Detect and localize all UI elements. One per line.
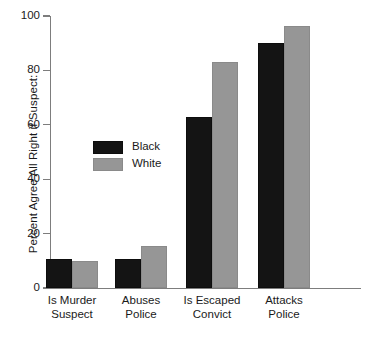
legend-swatch-black [93, 141, 123, 154]
legend-item-black: Black [93, 139, 161, 155]
bar-is-murder-suspect-white [72, 261, 98, 288]
legend-swatch-white [93, 158, 123, 171]
y-axis-tick-label: 0 [0, 282, 40, 294]
bar-chart: Percent Agree All Right if Suspect: 0204… [0, 0, 367, 340]
y-axis-tick-label: 20 [0, 228, 40, 240]
x-axis-line [50, 288, 361, 289]
x-axis-label-line: Police [229, 308, 339, 322]
x-axis-label-line: Attacks [229, 294, 339, 308]
y-axis-tick [43, 124, 50, 125]
bar-abuses-police-black [115, 259, 141, 288]
legend-label-white: White [132, 158, 161, 170]
legend-label-black: Black [132, 141, 160, 153]
y-axis-title: Percent Agree All Right if Suspect: [27, 39, 39, 289]
x-axis-label-attacks-police: AttacksPolice [229, 294, 339, 321]
y-axis-tick-label: 100 [0, 10, 40, 22]
y-axis-tick [43, 233, 50, 234]
y-axis-tick [43, 15, 50, 16]
y-axis-tick [43, 179, 50, 180]
bar-attacks-police-white [284, 26, 310, 288]
y-axis-tick-label: 60 [0, 119, 40, 131]
y-axis-tick-label: 40 [0, 173, 40, 185]
y-axis-tick-label: 80 [0, 64, 40, 76]
bar-attacks-police-black [258, 43, 284, 288]
bar-is-murder-suspect-black [46, 259, 72, 288]
legend-item-white: White [93, 156, 161, 172]
y-axis-tick [43, 70, 50, 71]
chart-legend: BlackWhite [93, 139, 161, 173]
bar-is-escaped-convict-black [186, 117, 212, 288]
bar-is-escaped-convict-white [212, 62, 238, 288]
bar-abuses-police-white [141, 246, 167, 288]
